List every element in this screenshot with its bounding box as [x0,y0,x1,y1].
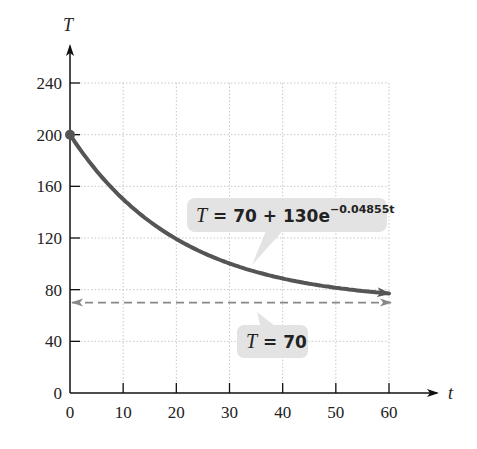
y-tick-label: 120 [37,229,63,248]
chart-canvas: tT 010203040506004080120160200240 T = 70… [0,0,477,449]
x-tick-label: 20 [168,403,185,422]
curve-equation-callout: T = 70 + 130e−0.04855t [187,198,395,265]
y-tick-label: 40 [45,332,62,351]
asymptote-callout: T = 70 [237,312,308,358]
x-tick-label: 40 [274,403,291,422]
callouts: T = 70 + 130e−0.04855tT = 70 [187,198,395,358]
y-tick-label: 160 [37,177,63,196]
y-tick-label: 240 [37,74,63,93]
y-tick-label: 200 [37,126,63,145]
x-tick-label: 30 [221,403,238,422]
y-tick-label: 0 [54,384,63,403]
x-axis-label: t [448,383,454,403]
asymptote-label: T = 70 [246,330,307,352]
tick-labels: 010203040506004080120160200240 [37,74,398,422]
grid-lines [70,83,389,393]
x-tick-label: 10 [115,403,132,422]
y-axis-label: T [63,15,75,35]
y-tick-label: 80 [45,281,62,300]
x-tick-label: 50 [327,403,344,422]
start-point [65,130,75,140]
x-tick-label: 60 [381,403,398,422]
x-tick-label: 0 [66,403,75,422]
